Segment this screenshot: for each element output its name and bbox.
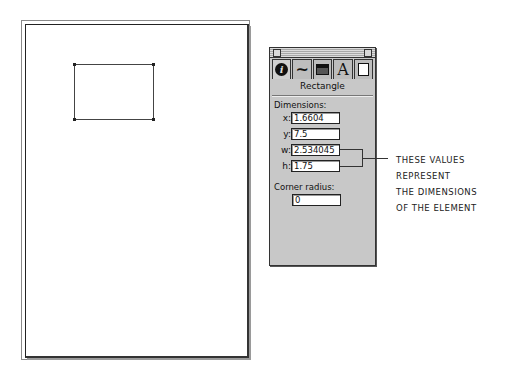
annotation-caption: THESE VALUES REPRESENT THE DIMENSIONS OF… bbox=[396, 152, 477, 216]
palette-titlebar[interactable] bbox=[270, 48, 375, 58]
field-row-w: w: 2.534045 bbox=[270, 144, 375, 157]
panel-title: Rectangle bbox=[270, 81, 375, 91]
zoom-box-icon[interactable] bbox=[364, 49, 372, 57]
caption-line: THESE VALUES bbox=[396, 152, 477, 168]
connector-line-w bbox=[340, 149, 363, 150]
tab-fill[interactable] bbox=[313, 59, 332, 79]
height-input[interactable]: 1.75 bbox=[291, 160, 340, 172]
info-icon: i bbox=[275, 63, 288, 76]
x-input[interactable]: 1.6604 bbox=[291, 112, 340, 124]
field-row-corner: 0 bbox=[270, 194, 375, 207]
connector-leader bbox=[362, 158, 388, 159]
tab-stroke[interactable]: ~ bbox=[292, 59, 311, 79]
resize-handle-br[interactable] bbox=[152, 118, 155, 121]
resize-handle-bl[interactable] bbox=[73, 118, 76, 121]
width-input[interactable]: 2.534045 bbox=[291, 144, 340, 156]
tab-info[interactable]: i bbox=[272, 59, 291, 79]
divider bbox=[272, 95, 373, 97]
field-row-y: y: 7.5 bbox=[270, 128, 375, 141]
corner-radius-label: Corner radius: bbox=[274, 182, 334, 192]
resize-handle-tl[interactable] bbox=[73, 63, 76, 66]
connector-line-h bbox=[340, 166, 363, 167]
text-icon: A bbox=[337, 60, 349, 79]
field-label-h: h: bbox=[276, 161, 291, 171]
tab-text[interactable]: A bbox=[333, 59, 352, 79]
caption-line: REPRESENT bbox=[396, 168, 477, 184]
corner-radius-input[interactable]: 0 bbox=[292, 194, 341, 206]
field-row-x: x: 1.6604 bbox=[270, 112, 375, 125]
object-inspector-palette: i ~ A Rectangle Dimensions: x: 1.6604 y:… bbox=[269, 47, 376, 266]
caption-line: OF THE ELEMENT bbox=[396, 200, 477, 216]
y-input[interactable]: 7.5 bbox=[291, 128, 340, 140]
caption-line: THE DIMENSIONS bbox=[396, 184, 477, 200]
resize-handle-tr[interactable] bbox=[152, 63, 155, 66]
tab-page[interactable] bbox=[354, 59, 373, 79]
field-label-w: w: bbox=[276, 145, 291, 155]
field-label-y: y: bbox=[276, 129, 291, 139]
inspector-tabs: i ~ A bbox=[272, 59, 373, 79]
field-label-x: x: bbox=[276, 113, 291, 123]
fill-icon bbox=[316, 64, 329, 75]
close-box-icon[interactable] bbox=[273, 49, 281, 57]
selected-rectangle[interactable] bbox=[74, 64, 154, 120]
stroke-icon: ~ bbox=[295, 60, 308, 79]
dimensions-label: Dimensions: bbox=[274, 100, 326, 110]
page-icon bbox=[358, 63, 369, 76]
